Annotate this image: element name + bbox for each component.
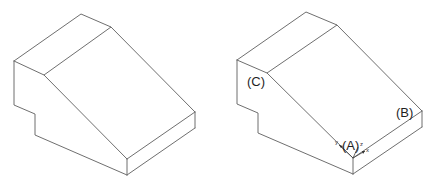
right-slope-front-edge bbox=[267, 73, 353, 158]
right-block: y z x (C) (B) (A) bbox=[237, 12, 422, 174]
label-a: (A) bbox=[342, 138, 359, 153]
left-side-profile bbox=[14, 61, 127, 175]
right-slope-back-edge bbox=[337, 25, 422, 111]
right-top-face bbox=[237, 12, 337, 73]
label-c: (C) bbox=[247, 74, 265, 89]
axis-z-label: z bbox=[360, 141, 363, 147]
left-slope-back-edge bbox=[111, 27, 195, 112]
diagram-canvas: y z x (C) (B) (A) bbox=[0, 0, 436, 184]
left-slope-front-edge bbox=[44, 75, 127, 159]
axis-x-label: x bbox=[366, 147, 369, 153]
axis-y-label: y bbox=[335, 139, 338, 145]
label-b: (B) bbox=[396, 105, 413, 120]
left-top-face bbox=[14, 14, 111, 75]
left-block bbox=[14, 14, 195, 175]
